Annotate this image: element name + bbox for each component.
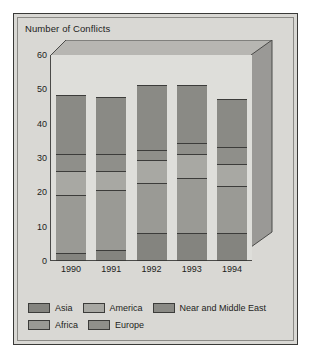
- bar-segment-1992-america[interactable]: [137, 160, 167, 182]
- plot-area: 0102030405060 19901991199219931994: [23, 40, 270, 278]
- legend-label: America: [110, 303, 143, 313]
- x-axis-tick-1992: 1992: [132, 264, 172, 274]
- bar-segment-1991-america[interactable]: [96, 171, 126, 190]
- bar-1994[interactable]: [217, 100, 247, 261]
- bar-segment-1992-africa[interactable]: [137, 183, 167, 233]
- legend-swatch-icon: [88, 320, 110, 330]
- bar-segment-1992-near-and-middle-east[interactable]: [137, 85, 167, 150]
- y-axis-tick-40: 40: [25, 119, 47, 129]
- plot-wall-right: [251, 40, 273, 278]
- bar-segment-1991-africa[interactable]: [96, 190, 126, 250]
- bar-1991[interactable]: [96, 98, 126, 261]
- bar-segment-1994-europe[interactable]: [217, 147, 247, 164]
- legend-swatch-icon: [28, 320, 50, 330]
- bar-segment-1993-asia[interactable]: [177, 233, 207, 260]
- bar-segment-1993-europe[interactable]: [177, 143, 207, 153]
- legend-item-near-and-middle-east[interactable]: Near and Middle East: [153, 303, 277, 313]
- legend-item-europe[interactable]: Europe: [88, 320, 154, 330]
- bar-segment-1991-near-and-middle-east[interactable]: [96, 97, 126, 154]
- bar-segment-1994-africa[interactable]: [217, 186, 247, 232]
- legend-swatch-icon: [28, 303, 50, 313]
- plot-wall-top-shape: [50, 40, 272, 56]
- legend-row-2: AfricaEurope: [28, 317, 278, 332]
- bar-1992[interactable]: [137, 86, 167, 261]
- x-axis-tick-1990: 1990: [51, 264, 91, 274]
- bar-segment-1992-asia[interactable]: [137, 233, 167, 260]
- bar-segment-1994-asia[interactable]: [217, 233, 247, 260]
- legend-label: Near and Middle East: [180, 303, 267, 313]
- legend-item-asia[interactable]: Asia: [28, 303, 83, 313]
- bar-segment-1994-america[interactable]: [217, 164, 247, 186]
- bar-segment-1990-america[interactable]: [56, 171, 86, 195]
- y-axis-tick-30: 30: [25, 153, 47, 163]
- x-axis-tick-1993: 1993: [172, 264, 212, 274]
- x-axis-tick-1994: 1994: [212, 264, 252, 274]
- chart-title: Number of Conflicts: [25, 23, 110, 34]
- y-axis-tick-60: 60: [25, 50, 47, 60]
- bar-segment-1991-asia[interactable]: [96, 250, 126, 260]
- y-axis-tick-0: 0: [25, 256, 47, 266]
- bar-segment-1990-asia[interactable]: [56, 253, 86, 260]
- legend-row-1: AsiaAmericaNear and Middle East: [28, 300, 278, 315]
- bar-segment-1991-europe[interactable]: [96, 154, 126, 171]
- legend-label: Africa: [55, 320, 78, 330]
- y-axis: 0102030405060: [23, 40, 47, 278]
- y-axis-tick-10: 10: [25, 222, 47, 232]
- legend-item-america[interactable]: America: [83, 303, 153, 313]
- legend-label: Europe: [115, 320, 144, 330]
- bar-segment-1990-africa[interactable]: [56, 195, 86, 253]
- bar-segment-1990-near-and-middle-east[interactable]: [56, 95, 86, 153]
- plot-wall-top: [50, 40, 272, 56]
- y-axis-tick-20: 20: [25, 187, 47, 197]
- legend-item-africa[interactable]: Africa: [28, 320, 88, 330]
- chart-legend: AsiaAmericaNear and Middle EastAfricaEur…: [28, 300, 278, 334]
- legend-swatch-icon: [153, 303, 175, 313]
- bar-segment-1993-near-and-middle-east[interactable]: [177, 85, 207, 143]
- x-axis: 19901991199219931994: [51, 264, 252, 278]
- bar-segment-1993-america[interactable]: [177, 154, 207, 178]
- plot-wall-right-shape: [251, 40, 273, 278]
- bar-group: [51, 55, 252, 261]
- bar-segment-1993-africa[interactable]: [177, 178, 207, 233]
- legend-label: Asia: [55, 303, 73, 313]
- bar-1993[interactable]: [177, 86, 207, 261]
- bar-segment-1994-near-and-middle-east[interactable]: [217, 99, 247, 147]
- y-axis-tick-50: 50: [25, 84, 47, 94]
- bar-segment-1992-europe[interactable]: [137, 150, 167, 160]
- bar-1990[interactable]: [56, 96, 86, 261]
- bar-segment-1990-europe[interactable]: [56, 154, 86, 171]
- legend-swatch-icon: [83, 303, 105, 313]
- chart-page: Number of Conflicts 0102030405060 199019…: [0, 0, 313, 359]
- x-axis-tick-1991: 1991: [91, 264, 131, 274]
